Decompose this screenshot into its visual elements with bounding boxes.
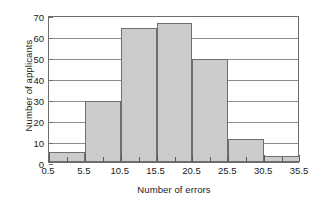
x-tick-label: 30.5	[254, 165, 273, 176]
plot-area: 010203040506070	[48, 16, 299, 163]
y-tick-mark	[49, 143, 53, 144]
y-tick-label: 60	[33, 33, 44, 44]
histogram-bar	[85, 101, 121, 162]
x-axis-title: Number of errors	[48, 184, 300, 195]
x-tick-mark-major	[192, 155, 193, 162]
x-tick-mark-major	[121, 155, 122, 162]
x-tick-label: 5.5	[77, 165, 90, 176]
y-axis-title: Number of applicants	[23, 11, 34, 161]
histogram-bar	[157, 23, 193, 162]
x-tick-label: 25.5	[218, 165, 237, 176]
x-tick-mark-minor	[210, 157, 211, 162]
y-tick-mark	[49, 17, 53, 18]
y-tick-mark	[49, 59, 53, 60]
histogram-chart: Number of applicants 010203040506070 0.5…	[0, 0, 320, 203]
x-tick-label: 15.5	[146, 165, 165, 176]
y-tick-label: 50	[33, 54, 44, 65]
x-tick-label: 20.5	[182, 165, 201, 176]
y-tick-label: 10	[33, 138, 44, 149]
x-tick-mark-minor	[103, 157, 104, 162]
histogram-bar	[121, 28, 157, 162]
x-tick-mark-minor	[282, 157, 283, 162]
x-tick-mark-minor	[139, 157, 140, 162]
x-tick-mark-major	[264, 155, 265, 162]
x-tick-mark-major	[85, 155, 86, 162]
x-tick-label: 35.5	[290, 165, 309, 176]
y-tick-label: 70	[33, 12, 44, 23]
x-tick-mark-major	[228, 155, 229, 162]
y-tick-label: 40	[33, 75, 44, 86]
y-tick-mark	[49, 38, 53, 39]
y-tick-mark	[49, 122, 53, 123]
x-tick-mark-minor	[175, 157, 176, 162]
x-tick-mark-minor	[246, 157, 247, 162]
x-tick-label: 10.5	[110, 165, 129, 176]
x-tick-mark-major	[49, 155, 50, 162]
y-tick-label: 20	[33, 117, 44, 128]
y-tick-mark	[49, 80, 53, 81]
x-tick-mark-major	[157, 155, 158, 162]
x-tick-mark-major	[299, 155, 300, 162]
y-tick-label: 30	[33, 96, 44, 107]
histogram-bar	[192, 59, 228, 162]
y-tick-mark	[49, 101, 53, 102]
x-tick-mark-minor	[67, 157, 68, 162]
x-tick-label: 0.5	[41, 165, 54, 176]
